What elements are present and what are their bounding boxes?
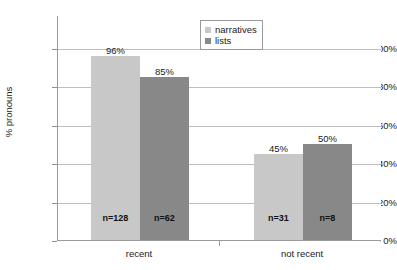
legend-label-narratives: narratives <box>215 24 257 35</box>
legend-swatch-icon <box>205 27 211 33</box>
legend: narratives lists <box>200 20 263 50</box>
bar-n-label-recent-lists: n=62 <box>140 213 189 223</box>
bar-n-label-recent-narratives: n=128 <box>91 213 140 223</box>
bar-value-label-notrecent-lists: 50% <box>303 133 352 144</box>
legend-entry-lists[interactable]: lists <box>205 35 257 46</box>
bar-n-label-notrecent-narratives: n=31 <box>254 213 303 223</box>
bar-chart: % pronouns 100% 80% 60% 40% 20% 0% 96% 8… <box>0 0 397 270</box>
bar-n-label-notrecent-lists: n=8 <box>303 213 352 223</box>
x-category-label-not-recent: not recent <box>253 248 351 259</box>
y-tick-mark <box>52 241 57 242</box>
y-axis-title: % pronouns <box>0 72 18 152</box>
bar-notrecent-narratives[interactable] <box>254 154 303 240</box>
bar-notrecent-lists[interactable] <box>303 144 352 240</box>
legend-entry-narratives[interactable]: narratives <box>205 24 257 35</box>
x-category-label-recent: recent <box>90 248 188 259</box>
bar-value-label-recent-lists: 85% <box>140 66 189 77</box>
legend-swatch-icon <box>205 38 211 44</box>
bar-value-label-notrecent-narratives: 45% <box>254 143 303 154</box>
legend-label-lists: lists <box>215 35 231 46</box>
bar-value-label-recent-narratives: 96% <box>91 45 140 56</box>
x-axis-divider-tick <box>219 241 220 246</box>
